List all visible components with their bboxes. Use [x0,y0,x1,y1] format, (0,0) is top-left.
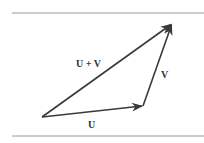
vector-sum-arrow [42,25,171,118]
vector-u-arrow [42,106,142,117]
vector-diagram: U + V V U [0,0,204,143]
sum-label: U + V [76,58,102,69]
u-label: U [88,119,95,130]
vector-v-arrow [143,25,172,106]
v-label: V [161,69,169,80]
